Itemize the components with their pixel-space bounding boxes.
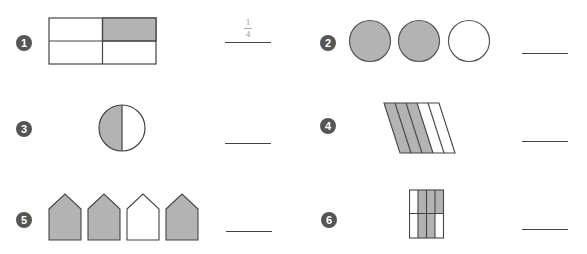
answer-numerator: 1: [246, 17, 251, 27]
grid-fraction-figure: [409, 189, 445, 240]
answer-denominator: 4: [246, 29, 251, 39]
circles-fraction-figure: [348, 18, 498, 64]
rectangle-fraction-figure: [48, 17, 158, 67]
circle-halves-figure: [98, 103, 146, 153]
problem-number-badge: 5: [16, 212, 32, 228]
answer-line[interactable]: [522, 141, 568, 142]
problem-number-badge: 3: [16, 121, 32, 137]
answer-line[interactable]: [522, 229, 568, 230]
answer-line[interactable]: [522, 53, 568, 54]
problem-number-badge: 1: [16, 35, 32, 51]
parallelogram-fraction-figure: [383, 101, 459, 155]
answer-fraction: 1 4: [225, 18, 271, 39]
answer-line[interactable]: [225, 143, 271, 144]
answer-line[interactable]: [226, 231, 272, 232]
problem-number-badge: 4: [320, 118, 336, 134]
problem-number-badge: 6: [321, 212, 337, 228]
pentagons-fraction-figure: [48, 193, 204, 243]
problem-number-badge: 2: [320, 35, 336, 51]
answer-line[interactable]: [225, 42, 271, 43]
